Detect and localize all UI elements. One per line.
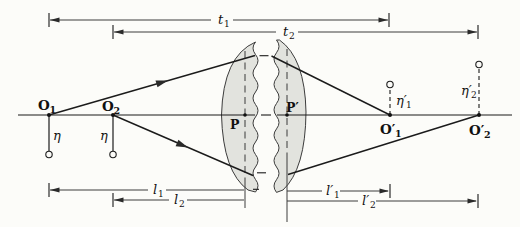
label-O1: O xyxy=(38,97,50,113)
label-O2-prime: O′ xyxy=(469,122,485,138)
t2-left-arrowhead xyxy=(114,29,124,34)
image-2-end-marker xyxy=(476,61,482,67)
label-eta1-prime-sub: 1 xyxy=(406,100,412,110)
label-O1-sub: 1 xyxy=(50,104,57,115)
label-l2-prime-sub: 2 xyxy=(370,200,376,210)
ray-lower-arrowhead xyxy=(176,140,188,148)
label-l1: l xyxy=(153,182,157,197)
t1-right-arrowhead xyxy=(379,17,389,22)
label-O2-prime-sub: 2 xyxy=(484,129,491,140)
label-t2-sub: 2 xyxy=(289,31,295,41)
lens-right-half xyxy=(274,40,306,192)
optics-figure: t 1 t 2 l 1 l 2 l′ 1 l′ 2 O 1 O 2 O′ 1 O… xyxy=(0,0,520,227)
point-P-dot xyxy=(243,113,247,117)
label-l1-prime-sub: 1 xyxy=(334,190,340,200)
label-eta2-prime-sub: 2 xyxy=(471,90,477,100)
l2-prime-right-arrowhead xyxy=(468,198,478,203)
label-l2-prime: l′ xyxy=(362,193,369,208)
object-1-end-marker xyxy=(46,151,52,157)
label-t1-sub: 1 xyxy=(224,19,230,29)
l1-prime-right-arrowhead xyxy=(380,188,390,193)
point-O2-prime-dot xyxy=(477,113,481,117)
image-1-end-marker xyxy=(387,81,393,87)
l2-left-arrowhead xyxy=(114,197,124,202)
label-P-prime: P′ xyxy=(286,100,299,115)
l1-left-arrowhead xyxy=(50,187,60,192)
label-l2: l xyxy=(174,192,178,207)
label-O2: O xyxy=(102,98,114,114)
label-P: P xyxy=(230,117,240,132)
t2-right-arrowhead xyxy=(468,29,478,34)
label-l1-sub: 1 xyxy=(158,189,164,199)
t1-left-arrowhead xyxy=(50,17,60,22)
label-O2-sub: 2 xyxy=(114,105,121,116)
label-eta1: η xyxy=(53,128,61,143)
label-eta2: η xyxy=(100,128,108,143)
label-O1-prime-sub: 1 xyxy=(395,128,402,139)
object-2-end-marker xyxy=(110,151,116,157)
label-l2-sub: 2 xyxy=(179,199,185,209)
label-l1-prime: l′ xyxy=(326,183,333,198)
label-O1-prime: O′ xyxy=(380,121,396,137)
ray-upper-arrowhead xyxy=(156,81,169,88)
point-O1-prime-dot xyxy=(388,113,392,117)
